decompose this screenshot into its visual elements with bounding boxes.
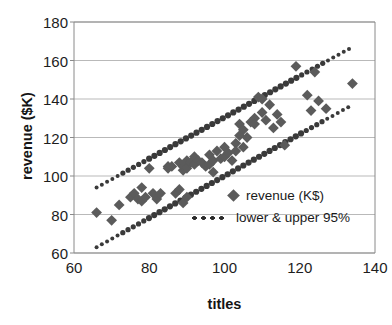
dotted-line-icon xyxy=(190,215,228,221)
data-point xyxy=(91,207,102,218)
data-point xyxy=(291,61,302,72)
legend-entry-confidence-band: lower & upper 95% xyxy=(190,210,350,225)
confidence-band-lower xyxy=(95,105,351,249)
confidence-band-upper xyxy=(95,47,351,190)
data-point xyxy=(144,163,155,174)
data-point xyxy=(106,215,117,226)
data-point xyxy=(268,122,279,133)
data-point xyxy=(347,78,358,89)
data-point xyxy=(321,103,332,114)
data-point xyxy=(136,182,147,193)
data-point xyxy=(306,105,317,116)
data-point xyxy=(264,99,275,110)
legend-entry-revenue: revenue (K$) xyxy=(215,188,324,203)
legend-label-confidence-band: lower & upper 95% xyxy=(236,210,350,225)
data-point xyxy=(114,199,125,210)
data-point xyxy=(313,96,324,107)
legend-label-revenue: revenue (K$) xyxy=(246,188,324,203)
diamond-marker-icon xyxy=(227,189,240,202)
